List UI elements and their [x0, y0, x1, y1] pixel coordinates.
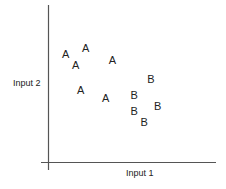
scatter-chart: AAAAAABBBBB Input 2 Input 1 [0, 0, 226, 189]
y-axis-label: Input 2 [13, 78, 41, 88]
point-b-1: B [147, 73, 154, 85]
point-a-2: A [82, 42, 90, 54]
point-a-5: A [77, 84, 85, 96]
point-b-4: B [130, 105, 137, 117]
point-a-4: A [109, 54, 117, 66]
point-a-6: A [102, 92, 110, 104]
x-axis-label: Input 1 [126, 168, 154, 178]
point-b-5: B [141, 116, 148, 128]
point-b-2: B [130, 89, 137, 101]
point-b-3: B [154, 100, 161, 112]
point-a-1: A [62, 48, 70, 60]
data-points: AAAAAABBBBB [62, 42, 161, 128]
point-a-3: A [72, 59, 80, 71]
